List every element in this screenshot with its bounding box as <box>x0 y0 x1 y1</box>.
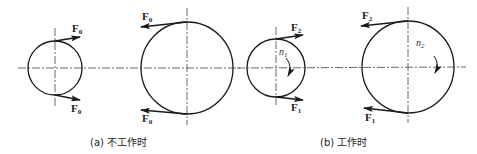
force-label-top: F0 <box>142 10 153 24</box>
small-pulley-a: F0 F0 <box>28 22 83 116</box>
force-arrow-bottom <box>276 97 303 100</box>
force-label-top: F2 <box>291 21 302 35</box>
caption-b: (b) 工作时 <box>320 134 367 149</box>
force-arrow-top <box>55 37 80 41</box>
force-label-bottom: F1 <box>291 101 302 115</box>
caption-a: (a) 不工作时 <box>90 134 147 149</box>
force-label-bottom: F0 <box>71 102 82 116</box>
force-label-top: F2 <box>362 9 373 23</box>
force-label-bottom: F0 <box>142 112 153 126</box>
large-pulley-a: F0 F0 <box>141 8 233 126</box>
force-label-bottom: F1 <box>365 111 376 125</box>
speed-label: n2 <box>416 37 425 50</box>
panel-b: F2 F1 n1 F2 F1 n2 <box>237 7 466 125</box>
speed-label: n1 <box>279 46 288 59</box>
force-arrow-bottom <box>55 95 80 100</box>
rotation-arrow-icon <box>286 58 290 76</box>
rotation-arrow-icon <box>434 56 437 73</box>
belt-tension-diagram: F0 F0 F0 F0 F2 F1 n1 <box>0 0 477 154</box>
large-pulley-b: F2 F1 n2 <box>361 7 454 125</box>
force-arrow-top <box>276 35 303 39</box>
panel-a: F0 F0 F0 F0 <box>18 8 240 126</box>
force-label-top: F0 <box>72 22 83 36</box>
horizontal-center-line <box>237 67 466 68</box>
